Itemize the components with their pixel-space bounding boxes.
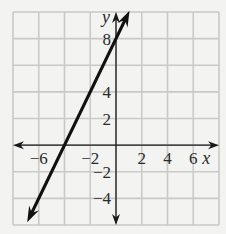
- y-tick-label: −4: [93, 189, 112, 208]
- x-tick-label: 2: [138, 149, 147, 168]
- line-y-equals-2x-plus-8: [31, 18, 126, 215]
- y-tick-label: −2: [93, 163, 111, 182]
- x-tick-label: 4: [163, 149, 172, 168]
- x-tick-label: −6: [30, 149, 48, 168]
- y-tick-label: 8: [103, 30, 112, 49]
- y-axis-label: y: [100, 7, 110, 27]
- x-tick-label: 6: [189, 149, 198, 168]
- y-tick-label: 4: [103, 83, 112, 102]
- y-tick-label: 2: [103, 110, 112, 129]
- plotted-line: [27, 11, 129, 223]
- x-axis-label: x: [201, 148, 210, 168]
- coordinate-plane: −6−2246842−2−4 x y: [0, 0, 226, 234]
